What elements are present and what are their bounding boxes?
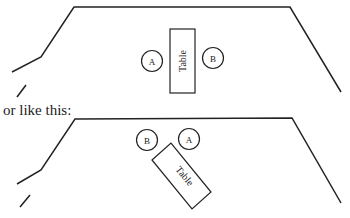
diagram-2-labels: Table B A (144, 135, 196, 189)
door-stub-1 (17, 85, 26, 97)
table-1-label: Table (177, 49, 188, 72)
door-stub-2 (20, 195, 30, 207)
seat-b-1-label: B (210, 54, 216, 64)
seat-a-1-label: A (149, 57, 156, 67)
caption-text: or like this: (3, 102, 71, 119)
seat-a-2-label: A (186, 135, 193, 145)
room-outline-2 (17, 118, 341, 203)
room-outline-1 (12, 7, 341, 92)
table-2-label: Table (173, 164, 196, 189)
diagram-2 (17, 118, 341, 209)
seat-b-2-label: B (144, 136, 150, 146)
